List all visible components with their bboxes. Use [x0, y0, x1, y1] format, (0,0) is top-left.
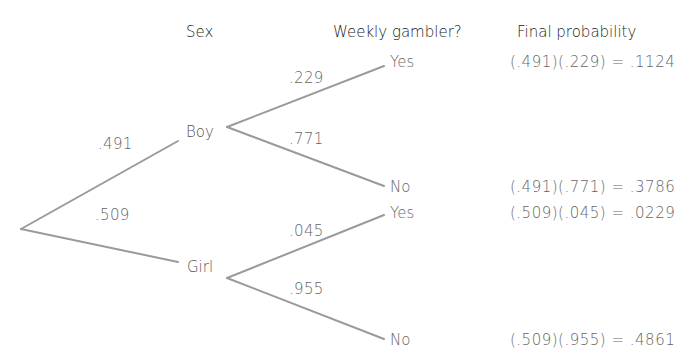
final-girl-yes: (.509)(.045) = .0229 [510, 204, 675, 222]
leaf-girl-no: No [390, 331, 410, 349]
prob-girl-no: .955 [289, 280, 324, 298]
header-final-probability: Final probability [517, 23, 636, 41]
prob-girl: .509 [95, 206, 130, 224]
branch-root-girl [21, 229, 178, 262]
node-boy: Boy [186, 123, 214, 141]
prob-boy-yes: .229 [289, 69, 324, 87]
header-weekly-gambler: Weekly gambler? [333, 23, 462, 41]
node-girl: Girl [187, 258, 213, 276]
leaf-boy-yes: Yes [390, 53, 414, 71]
final-boy-yes: (.491)(.229) = .1124 [510, 53, 675, 71]
final-girl-no: (.509)(.955) = .4861 [510, 331, 675, 349]
prob-girl-yes: .045 [289, 222, 324, 240]
final-boy-no: (.491)(.771) = .3786 [510, 178, 675, 196]
prob-boy-no: .771 [289, 130, 324, 148]
header-sex: Sex [186, 23, 213, 41]
leaf-girl-yes: Yes [390, 204, 414, 222]
leaf-boy-no: No [390, 178, 410, 196]
prob-boy: .491 [98, 135, 133, 153]
